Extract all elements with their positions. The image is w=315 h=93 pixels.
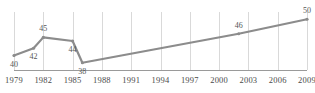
data-point-38	[81, 61, 84, 64]
data-point-42	[32, 47, 35, 50]
x-tick-1991: 1991	[122, 75, 140, 85]
point-value-label-44: 44	[69, 45, 77, 54]
x-tick-2009: 2009	[298, 75, 315, 85]
x-tick-1982: 1982	[34, 75, 52, 85]
point-value-label-40: 40	[10, 60, 18, 69]
chart-svg	[0, 0, 315, 72]
data-line-series-1	[14, 19, 307, 63]
x-tick-1979: 1979	[5, 75, 23, 85]
x-tick-1985: 1985	[64, 75, 82, 85]
data-point-marker-group	[12, 18, 308, 65]
x-tick-1997: 1997	[181, 75, 199, 85]
point-value-label-45: 45	[39, 24, 47, 33]
x-tick-2006: 2006	[269, 75, 287, 85]
data-point-44	[71, 39, 74, 42]
data-point-46	[237, 32, 240, 35]
plot-area	[0, 0, 315, 72]
x-tick-1988: 1988	[93, 75, 111, 85]
x-tick-2000: 2000	[210, 75, 228, 85]
gridline-group	[15, 12, 308, 70]
data-point-40	[12, 54, 15, 57]
line-chart: 40424544384650 1979198219851988199119941…	[0, 0, 315, 93]
x-tick-1994: 1994	[152, 75, 170, 85]
point-value-label-42: 42	[30, 52, 38, 61]
data-point-45	[42, 36, 45, 39]
x-tick-2003: 2003	[239, 75, 257, 85]
point-value-label-46: 46	[235, 21, 243, 30]
x-axis-tick-label-group: 1979198219851988199119941997200020032006…	[0, 72, 315, 93]
point-value-label-50: 50	[303, 6, 311, 15]
data-point-50	[305, 18, 308, 21]
